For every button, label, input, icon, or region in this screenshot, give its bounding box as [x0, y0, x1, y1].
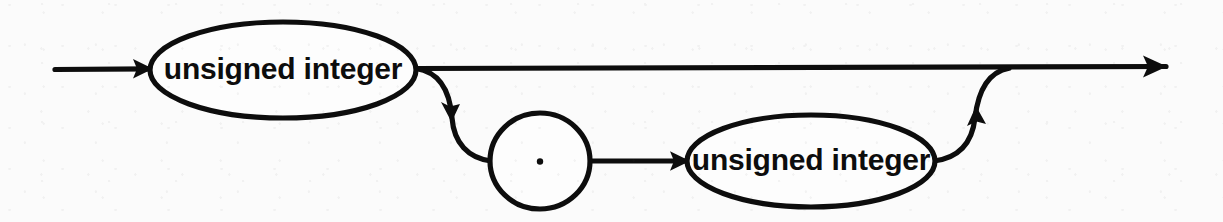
period-glyph-icon [537, 158, 543, 164]
node-unsigned-integer-left: unsigned integer [150, 22, 416, 118]
node-decimal-point [490, 113, 590, 209]
branch-up-rail [934, 68, 1009, 161]
node-right-label: unsigned integer [692, 143, 931, 176]
entry-rail [55, 69, 151, 70]
main-bypass-rail [416, 67, 1166, 69]
railroad-diagram-figure: unsigned integer unsigned integer [0, 0, 1223, 222]
node-unsigned-integer-right: unsigned integer [687, 115, 935, 207]
node-left-label: unsigned integer [164, 52, 403, 85]
railroad-diagram-canvas: unsigned integer unsigned integer [0, 0, 1223, 222]
